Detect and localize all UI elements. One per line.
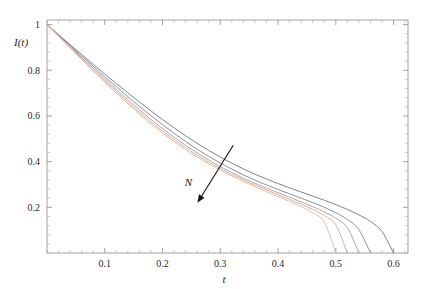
y-axis-ticks [47,25,408,253]
x-tick-label: 0.3 [214,258,227,269]
plot-frame [47,20,408,253]
x-axis-ticks [47,20,405,253]
x-tick-label: 0.2 [156,258,169,269]
x-tick-label: 0.6 [387,258,400,269]
y-tick-label: 0.8 [28,65,41,76]
data-curve [47,25,347,253]
data-curve [47,25,359,253]
data-curve [47,25,394,253]
y-tick-label: 0.4 [28,156,41,167]
y-tick-label: 0.2 [28,202,41,213]
figure-canvas: 0.10.20.30.40.50.6 0.20.40.60.81 I(t) t … [0,0,426,289]
chart-plot: 0.10.20.30.40.50.6 0.20.40.60.81 I(t) t … [0,0,426,289]
y-tick-label: 1 [35,19,40,30]
y-axis-tick-labels: 0.20.40.60.81 [28,19,41,213]
x-tick-label: 0.5 [330,258,343,269]
y-tick-label: 0.6 [28,110,41,121]
y-axis-label: I(t) [13,36,28,49]
data-curve [47,25,336,253]
n-annotation-label: N [184,176,193,188]
x-axis-label: t [222,273,226,285]
x-tick-label: 0.1 [99,258,112,269]
x-tick-label: 0.4 [272,258,285,269]
x-axis-tick-labels: 0.10.20.30.40.50.6 [99,258,400,269]
data-curves [47,25,394,253]
